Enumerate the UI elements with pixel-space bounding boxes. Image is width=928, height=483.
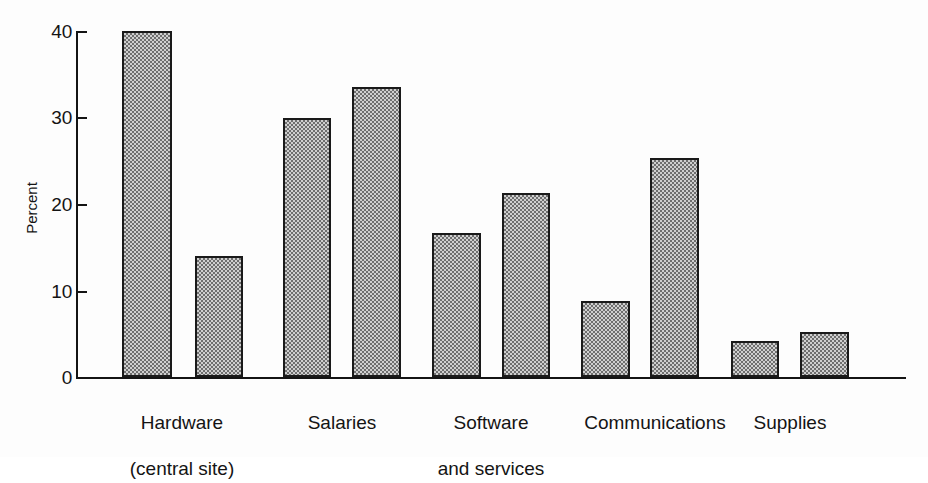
y-tick-mark-30 xyxy=(78,117,87,119)
bar-software-and-services-series-1 xyxy=(432,233,481,377)
x-category-label-software-line1: Software xyxy=(411,411,571,434)
y-tick-mark-20 xyxy=(78,204,87,206)
y-tick-label-0: 0 xyxy=(32,368,72,387)
y-tick-mark-10 xyxy=(78,291,87,293)
bar-supplies-series-1 xyxy=(731,341,779,377)
y-tick-label-40: 40 xyxy=(32,22,72,41)
y-tick-40: 40 xyxy=(0,31,72,33)
x-category-label-hardware-line2: (central site) xyxy=(102,457,262,480)
x-category-label-salaries-line1: Salaries xyxy=(262,411,422,434)
bar-communications-series-1 xyxy=(581,301,630,377)
bar-hardware-central-site-series-1 xyxy=(122,31,172,377)
y-tick-label-20: 20 xyxy=(32,195,72,214)
y-tick-10: 10 xyxy=(0,291,72,293)
y-tick-30: 30 xyxy=(0,117,72,119)
bar-communications-series-2 xyxy=(650,158,699,377)
x-category-label-hardware-line1: Hardware xyxy=(102,411,262,434)
x-category-label-software: Software and services xyxy=(411,388,571,483)
y-tick-20: 20 xyxy=(0,204,72,206)
bar-supplies-series-2 xyxy=(800,332,849,377)
y-tick-0: 0 xyxy=(0,377,72,379)
y-tick-label-10: 10 xyxy=(32,282,72,301)
bar-software-and-services-series-2 xyxy=(502,193,550,377)
x-category-label-software-line2: and services xyxy=(411,457,571,480)
bar-salaries-series-2 xyxy=(352,87,401,377)
x-axis-line xyxy=(76,377,906,379)
y-tick-mark-40 xyxy=(78,31,87,33)
bar-salaries-series-1 xyxy=(283,118,331,378)
x-category-label-supplies: Supplies xyxy=(710,388,870,457)
x-category-label-salaries: Salaries xyxy=(262,388,422,457)
bar-hardware-central-site-series-2 xyxy=(195,256,243,377)
x-category-label-supplies-line1: Supplies xyxy=(710,411,870,434)
y-tick-label-30: 30 xyxy=(32,108,72,127)
x-category-label-hardware: Hardware (central site) xyxy=(102,388,262,483)
